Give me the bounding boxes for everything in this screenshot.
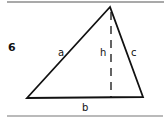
side-a-label: a: [58, 47, 64, 58]
height-label: h: [100, 47, 106, 58]
triangle: [27, 7, 143, 98]
triangle-diagram: 6 a h c b: [0, 0, 164, 122]
figure-number: 6: [8, 41, 16, 54]
side-c-label: c: [131, 47, 137, 58]
side-b-label: b: [82, 102, 88, 113]
